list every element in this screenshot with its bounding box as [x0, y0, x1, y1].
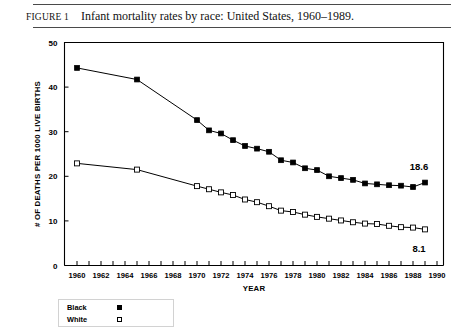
data-point-marker [411, 185, 416, 190]
series-black [75, 66, 428, 190]
data-point-marker [327, 174, 332, 179]
y-axis-title: # OF DEATHS PER 1000 LIVE BIRTHS [33, 81, 42, 227]
x-tick-label: 1984 [357, 271, 375, 280]
data-point-marker [339, 176, 344, 181]
data-point-marker [243, 144, 248, 149]
x-tick-label: 1988 [405, 271, 422, 280]
data-point-marker [303, 166, 308, 171]
data-point-marker [195, 118, 200, 123]
x-tick-label: 1962 [93, 271, 110, 280]
x-tick-label: 1964 [117, 271, 135, 280]
data-point-marker [75, 161, 80, 166]
data-point-marker [243, 197, 248, 202]
data-point-marker [351, 177, 356, 182]
data-point-marker [75, 66, 80, 71]
data-point-marker [411, 225, 416, 230]
x-tick-label: 1990 [429, 271, 446, 280]
value-label-8-1: 8.1 [412, 243, 426, 254]
data-point-marker [219, 131, 224, 136]
legend-label-white: White [67, 315, 107, 324]
x-tick-label: 1960 [69, 271, 86, 280]
data-point-marker [231, 193, 236, 198]
x-tick-label: 1978 [285, 271, 302, 280]
data-point-marker [279, 208, 284, 213]
x-tick-label: 1966 [141, 271, 158, 280]
chart-frame [65, 43, 444, 266]
x-tick-label: 1972 [213, 271, 230, 280]
x-tick-label: 1968 [165, 271, 182, 280]
data-point-marker [327, 216, 332, 221]
y-axis-ticks [65, 43, 69, 266]
y-tick-label: 0 [53, 262, 58, 271]
plot-frame [65, 43, 444, 266]
y-tick-label: 30 [49, 128, 58, 137]
data-point-marker [267, 149, 272, 154]
data-point-marker [423, 180, 428, 185]
open-square-icon [117, 317, 122, 322]
data-point-marker [291, 160, 296, 165]
data-point-marker [291, 209, 296, 214]
value-label-18-6: 18.6 [410, 161, 429, 172]
data-point-marker [207, 128, 212, 133]
x-axis-ticks [77, 261, 437, 266]
series-line [77, 163, 425, 229]
legend-item-white: White [67, 314, 173, 325]
legend-label-black: Black [67, 303, 107, 312]
data-point-marker [135, 77, 140, 82]
data-point-marker [387, 223, 392, 228]
data-point-marker [255, 200, 260, 205]
legend-item-black: Black [67, 302, 173, 313]
x-axis-tick-labels: 1960196219641966196819701972197419761978… [69, 271, 446, 280]
data-point-marker [219, 190, 224, 195]
y-axis-tick-labels: 01020304050 [49, 39, 58, 271]
data-point-marker [375, 222, 380, 227]
data-point-marker [339, 218, 344, 223]
chart-plot-area: 01020304050 1960196219641966196819701972… [0, 0, 462, 331]
filled-square-icon [117, 305, 122, 310]
y-tick-label: 20 [49, 172, 58, 181]
x-tick-label: 1986 [381, 271, 398, 280]
y-tick-label: 50 [49, 39, 58, 48]
line-chart: 01020304050 1960196219641966196819701972… [0, 0, 462, 331]
data-point-marker [195, 184, 200, 189]
data-point-marker [267, 204, 272, 209]
x-tick-label: 1982 [333, 271, 350, 280]
data-point-marker [279, 158, 284, 163]
data-point-marker [399, 225, 404, 230]
y-tick-label: 40 [49, 83, 58, 92]
annotation-layer: 18.68.1 [410, 161, 429, 255]
chart-legend: Black White [58, 299, 174, 327]
x-tick-label: 1970 [189, 271, 206, 280]
figure-root: FIGURE 1Infant mortality rates by race: … [0, 0, 462, 331]
x-tick-label: 1976 [261, 271, 278, 280]
data-series-layer [75, 66, 428, 232]
data-point-marker [423, 227, 428, 232]
data-point-marker [387, 183, 392, 188]
data-point-marker [135, 167, 140, 172]
x-axis-title: YEAR [243, 284, 266, 293]
x-tick-label: 1980 [309, 271, 326, 280]
data-point-marker [315, 168, 320, 173]
data-point-marker [375, 182, 380, 187]
y-tick-label: 10 [49, 217, 58, 226]
data-point-marker [207, 187, 212, 192]
data-point-marker [363, 221, 368, 226]
x-tick-label: 1974 [237, 271, 255, 280]
data-point-marker [255, 146, 260, 151]
data-point-marker [315, 214, 320, 219]
data-point-marker [399, 183, 404, 188]
data-point-marker [231, 138, 236, 143]
series-white [75, 161, 428, 232]
data-point-marker [303, 212, 308, 217]
data-point-marker [363, 181, 368, 186]
data-point-marker [351, 220, 356, 225]
